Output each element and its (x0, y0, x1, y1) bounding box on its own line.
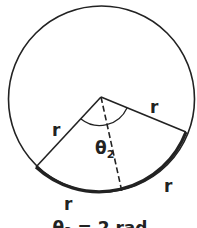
label-r-arc-right: r (164, 176, 173, 196)
caption: θ₂ = 2 rad (53, 218, 148, 228)
label-r-right: r (150, 97, 159, 117)
radian-diagram: r r r r θ2 θ₂ = 2 rad (0, 0, 197, 228)
radius-right (101, 97, 186, 132)
label-r-arc-left: r (64, 194, 73, 214)
radius-left (36, 97, 101, 167)
label-r-left: r (52, 120, 61, 140)
